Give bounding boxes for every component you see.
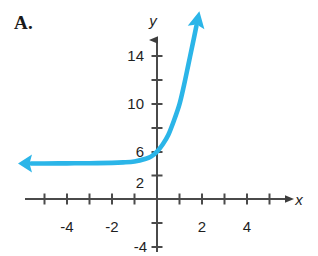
coordinate-plane-graph: 14 10 6 2 -4 -4 -2 2 4 x y: [0, 0, 318, 256]
x-axis-tick-labels: -4 -2 2 4: [60, 218, 251, 235]
y-tick-label-2: 2: [136, 174, 144, 191]
y-tick-label-14: 14: [127, 47, 144, 64]
x-tick-label--2: -2: [105, 218, 118, 235]
y-tick-label--4: -4: [134, 238, 147, 255]
x-tick-label--4: -4: [60, 218, 73, 235]
exponential-curve-group: [18, 11, 204, 172]
x-tick-label-4: 4: [243, 218, 251, 235]
x-axis-label: x: [294, 191, 303, 208]
exponential-curve: [31, 26, 196, 163]
y-tick-label-10: 10: [127, 95, 144, 112]
x-tick-label-2: 2: [198, 218, 206, 235]
y-axis-label: y: [148, 12, 158, 29]
y-axis-tick-labels: 14 10 6 2 -4: [127, 47, 147, 255]
